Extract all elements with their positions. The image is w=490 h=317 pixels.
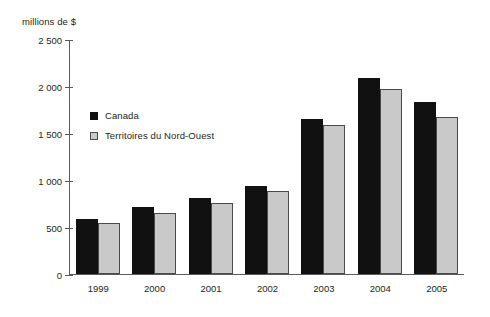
bar bbox=[245, 186, 267, 274]
x-axis-category-label: 2003 bbox=[301, 283, 347, 294]
y-axis-tick-mark bbox=[65, 275, 73, 276]
legend-label-canada: Canada bbox=[105, 110, 139, 121]
legend-label-territoires-du-nord-ouest: Territoires du Nord-Ouest bbox=[105, 130, 214, 141]
bar-group bbox=[132, 40, 176, 274]
bar bbox=[358, 78, 380, 274]
legend-item-canada: Canada bbox=[90, 110, 214, 121]
x-axis-category-label: 2005 bbox=[414, 283, 460, 294]
bar bbox=[154, 213, 176, 274]
bar-chart: millions de $ 05001 0001 5002 0002 500 1… bbox=[0, 0, 490, 317]
x-axis-category-label: 2000 bbox=[132, 283, 178, 294]
bar bbox=[211, 203, 233, 274]
y-axis-tick-label: 1 500 bbox=[38, 129, 62, 140]
bar-group bbox=[358, 40, 402, 274]
x-axis-category-label: 2002 bbox=[244, 283, 290, 294]
y-axis-tick-label: 2 500 bbox=[38, 35, 62, 46]
legend-swatch-icon-canada bbox=[90, 112, 98, 120]
y-axis-tick-label: 2 000 bbox=[38, 82, 62, 93]
bar bbox=[380, 89, 402, 274]
bar bbox=[301, 119, 323, 274]
bar bbox=[323, 125, 345, 274]
y-axis-tick-label: 500 bbox=[46, 223, 62, 234]
bar bbox=[436, 117, 458, 274]
x-axis-category-label: 2001 bbox=[188, 283, 234, 294]
bar-group bbox=[301, 40, 345, 274]
legend-swatch-icon-territoires-du-nord-ouest bbox=[90, 132, 98, 140]
bar bbox=[98, 223, 120, 274]
x-axis-category-label: 2004 bbox=[357, 283, 403, 294]
bar-group bbox=[414, 40, 458, 274]
plot-area: 05001 0001 5002 0002 500 bbox=[69, 40, 464, 275]
bar bbox=[414, 102, 436, 274]
bar-group bbox=[76, 40, 120, 274]
bar bbox=[267, 191, 289, 274]
bar bbox=[189, 198, 211, 274]
bar-groups bbox=[70, 40, 464, 274]
legend-item-territoires-du-nord-ouest: Territoires du Nord-Ouest bbox=[90, 130, 214, 141]
y-axis-tick-label: 0 bbox=[57, 270, 62, 281]
bar bbox=[132, 207, 154, 274]
x-axis-line bbox=[69, 274, 464, 275]
y-axis-tick-label: 1 000 bbox=[38, 176, 62, 187]
x-axis-category-labels: 1999200020012002200320042005 bbox=[70, 283, 465, 294]
chart-legend: Canada Territoires du Nord-Ouest bbox=[90, 110, 214, 150]
bar-group bbox=[245, 40, 289, 274]
x-axis-category-label: 1999 bbox=[75, 283, 121, 294]
y-axis-unit-label: millions de $ bbox=[22, 16, 76, 27]
bar bbox=[76, 219, 98, 274]
bar-group bbox=[189, 40, 233, 274]
